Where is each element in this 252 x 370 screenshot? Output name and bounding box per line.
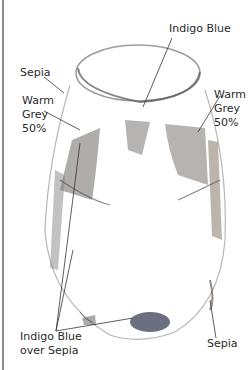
label-warm-grey-right: Warm Grey 50% <box>214 88 246 130</box>
glass-drawing <box>0 0 252 370</box>
label-warm-grey-left: Warm Grey 50% <box>22 94 54 136</box>
label-indigo-over-sepia: Indigo Blue over Sepia <box>20 330 82 358</box>
label-indigo-blue: Indigo Blue <box>169 22 231 36</box>
label-sepia-left: Sepia <box>20 66 51 80</box>
label-sepia-right: Sepia <box>207 337 238 351</box>
